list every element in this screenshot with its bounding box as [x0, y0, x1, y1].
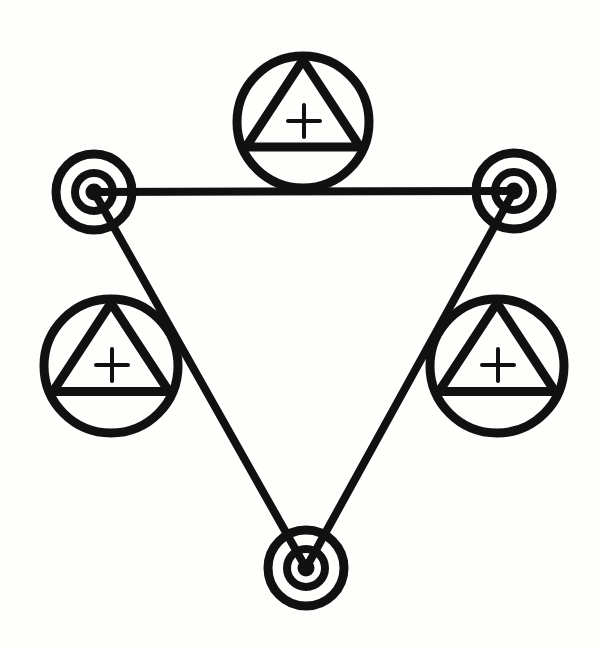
emblem-right-triangle-plus-icon — [430, 299, 564, 433]
emblem-left-triangle-plus-icon — [44, 299, 178, 433]
diagram-canvas — [0, 0, 600, 650]
emblem-top-triangle-plus-icon — [237, 56, 369, 188]
